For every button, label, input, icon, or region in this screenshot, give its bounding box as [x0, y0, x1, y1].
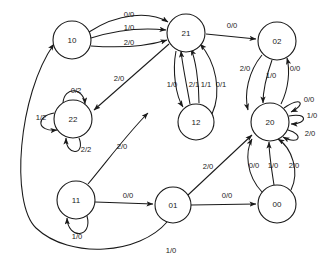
edge-label-20-self-2: 2/0	[305, 129, 316, 138]
edge-label-11-22: 2/0	[117, 142, 128, 151]
edge-label-20-self-0: 0/0	[304, 95, 315, 104]
edge-20-to-02-0	[281, 58, 289, 104]
edge-21-to-02	[206, 34, 256, 39]
edge-12-to-21-1	[191, 49, 199, 103]
node-02[interactable]: 02	[258, 22, 296, 60]
node-10[interactable]: 10	[53, 21, 91, 59]
node-12[interactable]: 12	[178, 104, 214, 140]
edge-11-to-01	[95, 202, 153, 204]
edge-label-20-02-0: 0/0	[290, 64, 301, 73]
node-11-label: 11	[72, 196, 81, 205]
edge-20-self-0	[284, 102, 300, 112]
edge-label-02-20-1: 1/0	[266, 71, 277, 80]
edge-label-12-21-2: 2/1	[189, 80, 200, 89]
edge-label-22-self-1: 1/2	[36, 113, 47, 122]
edge-label-10-21-1: 1/0	[124, 23, 135, 32]
node-02-label: 02	[273, 37, 282, 46]
node-21[interactable]: 21	[167, 14, 205, 52]
diagram-canvas: 10 21 02 22 12 20 11 01	[0, 0, 324, 267]
edge-02-to-20-1	[263, 60, 272, 103]
edge-label-21-12: 1/0	[167, 80, 178, 89]
edge-label-00-20-1: 1/0	[268, 161, 279, 170]
edge-label-11-01: 0/0	[123, 191, 134, 200]
edge-01-to-00	[191, 204, 256, 205]
edge-01-to-20	[188, 135, 252, 195]
node-22-label: 22	[69, 115, 78, 124]
node-20[interactable]: 20	[251, 103, 289, 141]
edge-21-to-22	[94, 44, 169, 110]
edge-label-20-self-1: 1/0	[307, 111, 318, 120]
edge-12-to-21-0	[200, 44, 217, 114]
node-22[interactable]: 22	[54, 100, 92, 138]
state-machine-diagram: 10 21 02 22 12 20 11 01	[0, 0, 324, 267]
node-10-label: 10	[68, 36, 77, 45]
edge-12-to-21-2	[181, 51, 190, 104]
edge-label-10-21-0: 0/0	[124, 10, 135, 19]
node-01-label: 01	[169, 201, 178, 210]
edge-label-12-21-1: 1/1	[201, 80, 212, 89]
edge-label-02-20-2: 2/0	[240, 64, 251, 73]
edge-20-self-1	[289, 115, 304, 124]
edge-label-01-10-return: 1/0	[166, 246, 177, 255]
node-00[interactable]: 00	[258, 185, 296, 223]
edge-label-21-22: 2/0	[114, 74, 125, 83]
node-20-label: 20	[266, 118, 275, 127]
edge-label-22-self-0: 0/2	[71, 86, 82, 95]
edge-02-20-group	[247, 55, 289, 110]
node-11[interactable]: 11	[57, 181, 95, 219]
edge-label-10-21-2: 2/0	[124, 38, 135, 47]
edge-label-00-20-2: 2/0	[289, 161, 300, 170]
edge-label-21-02: 0/0	[227, 21, 238, 30]
edge-22-self-2	[66, 138, 80, 152]
node-01[interactable]: 01	[155, 187, 191, 223]
edge-label-12-21-0: 0/1	[216, 80, 227, 89]
edge-01-to-10-return	[21, 44, 167, 249]
node-12-label: 12	[192, 118, 201, 127]
edge-label-00-20-0: 0/0	[249, 161, 260, 170]
node-21-label: 21	[182, 29, 191, 38]
edge-label-22-self-2: 2/2	[81, 145, 92, 154]
edge-label-01-20: 2/0	[203, 162, 214, 171]
edge-label-11-self: 1/0	[72, 232, 83, 241]
node-00-label: 00	[273, 200, 282, 209]
edge-label-01-00: 0/0	[222, 191, 233, 200]
